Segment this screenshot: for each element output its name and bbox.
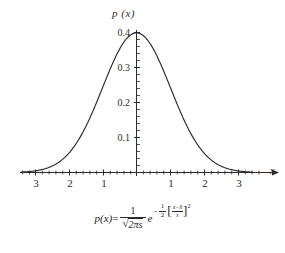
x-tick-label-neg3: 3 xyxy=(28,178,44,189)
formula-coefficient: 1 √ 2πs xyxy=(120,206,147,230)
formula-inner-denominator: s xyxy=(175,212,179,218)
formula-exponent-sign: − xyxy=(153,207,158,216)
y-tick-label-0.2: 0.2 xyxy=(104,98,130,108)
formula-exponent: − 1 2 [ x−x̄ s ] 2 xyxy=(153,210,190,226)
formula-coefficient-numerator: 1 xyxy=(127,206,138,217)
density-formula: p(x) = 1 √ 2πs e − 1 xyxy=(0,206,285,230)
x-tick-label-2: 2 xyxy=(197,178,213,189)
formula-lhs: p(x) xyxy=(95,212,113,224)
y-tick-label-0.4: 0.4 xyxy=(104,28,130,38)
x-tick-label-neg2: 2 xyxy=(62,178,78,189)
square-root: √ 2πs xyxy=(123,218,144,231)
y-tick-label-0.3: 0.3 xyxy=(104,63,130,73)
formula-inner-fraction: x−x̄ s xyxy=(172,204,183,218)
y-tick-label-0.1: 0.1 xyxy=(104,133,130,143)
formula-exponent-power: 2 xyxy=(187,203,190,209)
formula-coefficient-denominator: √ 2πs xyxy=(120,218,147,231)
x-tick-label-1: 1 xyxy=(163,178,179,189)
formula-exponent-half: 1 2 xyxy=(159,203,167,219)
formula-exponent-denominator: 2 xyxy=(159,212,167,219)
formula-exponential-base: e xyxy=(147,212,152,224)
formula-equals: = xyxy=(112,212,118,224)
formula-radicand: 2πs xyxy=(128,218,144,231)
y-axis-title: p (x) xyxy=(112,8,135,19)
x-axis-title: x xyxy=(270,166,274,176)
formula-exponent-numerator: 1 xyxy=(159,203,167,210)
x-tick-label-3: 3 xyxy=(231,178,247,189)
x-tick-label-neg1: 1 xyxy=(96,178,112,189)
normal-distribution-figure: p (x) x 0.4 0.3 0.2 0.1 3 2 1 1 2 3 p(x)… xyxy=(0,0,285,253)
